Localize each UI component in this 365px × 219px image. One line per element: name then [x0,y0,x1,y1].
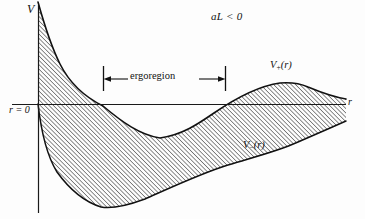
origin-label: r = 0 [9,105,30,115]
curve-label-v-minus: V−(r) [243,140,265,152]
figure-container: V aL < 0 r = 0 r ergoregion V+(r) V−(r) [0,0,365,219]
x-axis-label: r [348,97,352,107]
curve-label-v-plus: V+(r) [270,60,292,72]
y-axis-label: V [27,3,34,15]
ergoregion-right-arrowhead [218,76,226,82]
ergoregion-label: ergoregion [130,71,175,82]
curve-label-v-minus-suffix: (r) [254,139,265,150]
curve-label-v-plus-suffix: (r) [281,59,292,70]
condition-label-text: aL < 0 [211,10,243,22]
ergoregion-left-arrowhead [104,76,112,82]
potential-plot [0,0,365,219]
condition-label: aL < 0 [211,11,243,22]
